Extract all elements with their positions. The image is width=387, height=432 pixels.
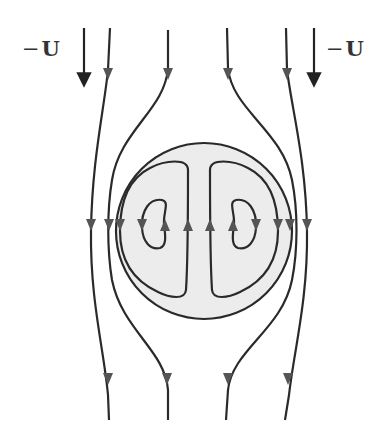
arrow-down-icon — [103, 373, 113, 385]
arrow-down-icon — [86, 219, 96, 231]
arrow-down-icon — [282, 68, 292, 80]
arrow-down-icon — [103, 68, 113, 80]
arrow-down-icon — [104, 219, 114, 231]
arrow-down-icon — [162, 373, 172, 385]
streamline-diagram — [0, 0, 387, 432]
arrow-down-icon — [163, 68, 173, 80]
arrow-down-icon — [302, 219, 312, 231]
arrow-down-icon — [223, 68, 233, 80]
